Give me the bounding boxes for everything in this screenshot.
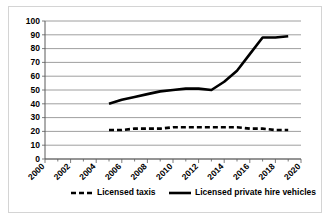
y-axis-tick-label: 100 — [26, 16, 40, 26]
y-axis-tick-label: 90 — [31, 30, 41, 40]
x-axis-tick-label: 2012 — [180, 161, 201, 182]
y-axis-tick-label: 60 — [31, 71, 41, 81]
series-line-2 — [109, 36, 288, 104]
x-axis-tick-label: 2002 — [52, 161, 73, 182]
y-axis-tick-label: 80 — [31, 43, 41, 53]
x-axis-tick-label: 2008 — [128, 161, 149, 182]
x-axis-tick-label: 2020 — [282, 161, 303, 182]
y-axis-tick-label: 20 — [31, 126, 41, 136]
y-axis-tick-label: 30 — [31, 112, 41, 122]
y-axis-tick-label: 10 — [31, 140, 41, 150]
y-axis-tick-label: 70 — [31, 57, 41, 67]
series-line-1 — [109, 127, 288, 130]
chart-container: 0102030405060708090100200020022004200620… — [8, 6, 322, 213]
x-axis-tick-label: 2016 — [231, 161, 252, 182]
plot-area: 0102030405060708090100200020022004200620… — [9, 7, 323, 214]
x-axis-tick-label: 2018 — [256, 161, 277, 182]
x-axis-tick-label: 2000 — [26, 161, 47, 182]
x-axis-tick-label: 2006 — [103, 161, 124, 182]
x-axis-tick-label: 2010 — [154, 161, 175, 182]
legend-label-1: Licensed taxis — [97, 187, 156, 197]
line-chart: 0102030405060708090100200020022004200620… — [9, 7, 323, 214]
x-axis-tick-label: 2014 — [205, 161, 226, 182]
y-axis-tick-label: 40 — [31, 99, 41, 109]
legend-label-2: Licensed private hire vehicles — [195, 187, 316, 197]
x-axis-tick-label: 2004 — [77, 161, 98, 182]
y-axis-tick-label: 50 — [31, 85, 41, 95]
